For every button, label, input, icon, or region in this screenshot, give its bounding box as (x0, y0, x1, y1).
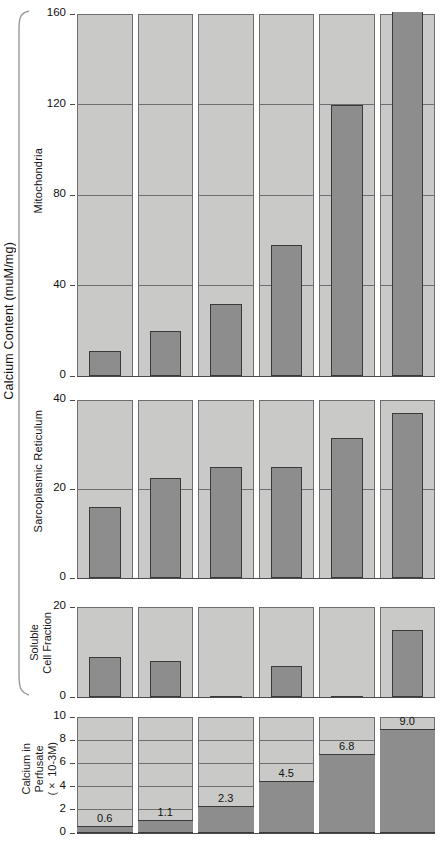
bar (331, 105, 363, 377)
bar (89, 351, 121, 376)
bar (210, 467, 242, 578)
y-tick-label: 20 (26, 599, 66, 611)
gridline (77, 285, 133, 286)
gridline (77, 104, 133, 105)
gridline (259, 763, 315, 764)
gridline (259, 400, 315, 401)
gridline (259, 104, 315, 105)
y-tick-mark (70, 786, 75, 787)
y-tick-mark (70, 104, 75, 105)
gridline (198, 786, 254, 787)
gridline (77, 400, 133, 401)
bar-value-label: 6.8 (319, 740, 375, 752)
y-tick-label: 0 (26, 825, 66, 837)
bar-value-label: 0.6 (77, 812, 133, 824)
gridline (77, 740, 133, 741)
gridline (198, 763, 254, 764)
y-tick-mark (70, 740, 75, 741)
bar (319, 754, 375, 833)
gridline (259, 607, 315, 608)
y-tick-mark (70, 14, 75, 15)
gridline (198, 104, 254, 105)
y-tick-label: 0 (26, 570, 66, 582)
gridline (198, 400, 254, 401)
gridline (138, 285, 194, 286)
gridline (138, 786, 194, 787)
section-label-mitochondria: Mitochondria (32, 148, 44, 213)
y-tick-mark (70, 376, 75, 377)
bar (331, 438, 363, 578)
y-tick-label: 40 (26, 278, 66, 290)
gridline (198, 717, 254, 718)
gridline (138, 763, 194, 764)
y-tick-label: 120 (26, 97, 66, 109)
gridline (138, 400, 194, 401)
bar (271, 467, 303, 578)
bar-value-label: 9.0 (380, 715, 436, 727)
main-y-axis-label: Calcium Content (muM/mg) (2, 242, 16, 400)
y-tick-label: 2 (26, 802, 66, 814)
gridline (319, 14, 375, 15)
bar (271, 666, 303, 698)
bar (150, 478, 182, 578)
gridline (319, 400, 375, 401)
gridline (380, 607, 436, 608)
y-tick-mark (70, 833, 75, 834)
gridline (198, 607, 254, 608)
bar (271, 245, 303, 376)
panel-baseline (77, 578, 435, 579)
soluble-label-line-1: Soluble (28, 625, 40, 662)
y-tick-mark (70, 195, 75, 196)
y-tick-mark (70, 717, 75, 718)
y-tick-label: 10 (26, 709, 66, 721)
gridline (77, 14, 133, 15)
bar (138, 820, 194, 833)
bar (198, 806, 254, 833)
y-tick-label: 0 (26, 689, 66, 701)
y-tick-label: 160 (26, 6, 66, 18)
gridline (319, 717, 375, 718)
bar-value-label: 2.3 (198, 792, 254, 804)
gridline (198, 195, 254, 196)
bar (89, 507, 121, 578)
y-tick-mark (70, 285, 75, 286)
gridline (77, 607, 133, 608)
gridline (259, 195, 315, 196)
calcium-content-figure: Calcium Content (muM/mg) Mitochondria Sa… (0, 0, 444, 851)
gridline (198, 285, 254, 286)
bar (77, 826, 133, 833)
gridline (138, 607, 194, 608)
y-tick-mark (70, 809, 75, 810)
gridline (259, 717, 315, 718)
bar (392, 12, 424, 376)
y-tick-label: 80 (26, 187, 66, 199)
y-tick-mark (70, 697, 75, 698)
bar (89, 657, 121, 698)
panel-column-background (198, 607, 254, 697)
gridline (380, 400, 436, 401)
panel-baseline (77, 833, 435, 834)
panel-baseline (77, 697, 435, 698)
y-tick-mark (70, 578, 75, 579)
gridline (138, 717, 194, 718)
bar (392, 630, 424, 698)
bar (392, 413, 424, 578)
gridline (198, 14, 254, 15)
y-tick-label: 20 (26, 481, 66, 493)
gridline (77, 786, 133, 787)
y-tick-mark (70, 400, 75, 401)
gridline (319, 607, 375, 608)
y-tick-label: 6 (26, 755, 66, 767)
gridline (259, 740, 315, 741)
y-tick-label: 40 (26, 392, 66, 404)
gridline (77, 717, 133, 718)
panel-baseline (77, 376, 435, 377)
bar (150, 661, 182, 697)
section-label-sarcoplasmic-reticulum: Sarcoplasmic Reticulum (32, 410, 44, 532)
y-tick-label: 8 (26, 732, 66, 744)
y-tick-mark (70, 607, 75, 608)
gridline (138, 195, 194, 196)
bar (210, 304, 242, 376)
y-tick-mark (70, 489, 75, 490)
section-label-soluble-cell-fraction: Soluble Cell Fraction (28, 612, 54, 674)
